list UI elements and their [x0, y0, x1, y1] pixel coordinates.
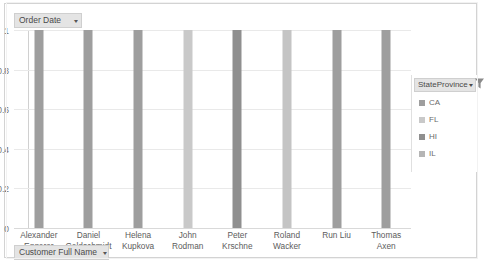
legend-item-label: FL	[429, 115, 438, 124]
y-axis-tick-label: 1	[4, 26, 9, 36]
bar-slot	[163, 30, 213, 228]
state-province-field-button[interactable]: StateProvince ▾	[414, 78, 476, 92]
x-axis-category-label: Helena Kupkova	[113, 230, 163, 251]
bar-slot	[312, 30, 362, 228]
legend-item[interactable]: IL	[419, 149, 436, 158]
state-province-field-label: StateProvince	[418, 81, 468, 89]
gridline: 0	[14, 228, 411, 229]
legend-swatch-icon	[419, 100, 425, 106]
bar-slot	[14, 30, 64, 228]
bar-slot	[213, 30, 263, 228]
x-axis-category-label: Run Liu	[312, 230, 362, 241]
x-axis-category-label: Peter Krschne	[213, 230, 263, 251]
x-axis-category-label: Thomas Axen	[361, 230, 411, 251]
legend-swatch-icon	[419, 151, 425, 157]
chevron-down-icon[interactable]: ▾	[102, 250, 106, 256]
y-axis-tick-label: 0.4	[0, 145, 9, 155]
legend-swatch-icon	[419, 134, 425, 140]
bar-slot	[64, 30, 114, 228]
bar[interactable]	[233, 30, 242, 228]
bar[interactable]	[84, 30, 93, 228]
bar-slot	[113, 30, 163, 228]
customer-full-name-field-label: Customer Full Name	[19, 248, 103, 257]
legend-item[interactable]: CA	[419, 98, 440, 107]
bars-layer	[14, 30, 411, 228]
y-axis-tick-label: 0.2	[0, 184, 9, 194]
bar[interactable]	[34, 30, 43, 228]
y-axis-tick-label: 0.6	[0, 105, 9, 115]
y-axis-tick-label: 0	[4, 224, 9, 234]
legend-item-label: HI	[429, 132, 437, 141]
legend-panel: StateProvince ▾ CAFLHIIL	[411, 75, 482, 172]
bar[interactable]	[382, 30, 391, 228]
legend-item-label: IL	[429, 149, 436, 158]
bar-slot	[361, 30, 411, 228]
x-axis-category-label: Roland Wacker	[262, 230, 312, 251]
bar-slot	[262, 30, 312, 228]
chevron-down-icon[interactable]: ▾	[469, 82, 473, 88]
plot-area: 00.20.40.60.81	[14, 30, 411, 228]
bar[interactable]	[332, 30, 341, 228]
legend-item-label: CA	[429, 98, 440, 107]
bar[interactable]	[183, 30, 192, 228]
filter-funnel-icon[interactable]	[474, 77, 485, 90]
bar[interactable]	[134, 30, 143, 228]
pivot-chart-frame: Order Date ▾ 00.20.40.60.81 Alexander Eg…	[4, 3, 477, 258]
bar[interactable]	[282, 30, 291, 228]
y-axis-tick-label: 0.8	[0, 66, 9, 76]
legend-item[interactable]: FL	[419, 115, 438, 124]
order-date-field-button[interactable]: Order Date ▾	[14, 13, 82, 28]
order-date-field-label: Order Date	[19, 16, 67, 25]
customer-full-name-field-button[interactable]: Customer Full Name ▾	[14, 245, 109, 260]
x-axis-category-label: John Rodman	[163, 230, 213, 251]
legend-swatch-icon	[419, 117, 425, 123]
legend-item[interactable]: HI	[419, 132, 437, 141]
chevron-down-icon[interactable]: ▾	[74, 18, 78, 24]
